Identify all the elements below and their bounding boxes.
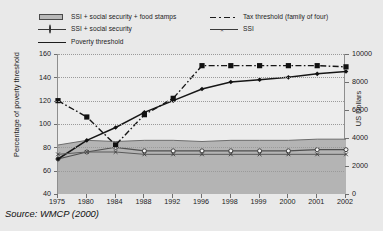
y-axis-left-tickmark	[54, 147, 58, 148]
y-axis-left-tickmark	[54, 124, 58, 125]
x-axis-tickmark	[57, 194, 58, 198]
x-axis-tickmark	[172, 194, 173, 198]
x-axis-tick-label: 1996	[193, 198, 209, 206]
y-axis-left-tick-label: 140	[39, 74, 51, 81]
x-axis-tickmark	[287, 194, 288, 198]
legend-item-ssi-social-security: SSI + social security	[38, 24, 176, 37]
x-axis-tickmark	[115, 194, 116, 198]
y-axis-right-tickmark	[345, 166, 349, 167]
line-open-circle-icon	[38, 24, 66, 35]
y-axis-right-tickmark	[345, 54, 349, 55]
x-axis-tickmark	[259, 194, 260, 198]
y-axis-right-tick-label: 8000	[352, 78, 368, 85]
gridline	[58, 147, 344, 148]
line-x-marker-icon: ×	[210, 24, 238, 35]
area-swatch-icon	[38, 12, 66, 23]
y-axis-right-tick-label: 4000	[352, 134, 368, 141]
x-axis-tickmark	[143, 194, 144, 198]
y-axis-right-tickmark	[345, 110, 349, 111]
x-axis-tick-label: 1975	[49, 198, 65, 206]
x-axis-tick-label: 1992	[164, 198, 180, 206]
y-axis-left-tick-label: 160	[39, 50, 51, 57]
y-axis-left-tickmark	[54, 171, 58, 172]
y-axis-right-tick-label: 6000	[352, 106, 368, 113]
legend-item-poverty-threshold: Poverty threshold	[38, 36, 176, 49]
y-axis-left-tickmark	[54, 54, 58, 55]
y-axis-left-title: Percentage of poverty threshold	[12, 45, 21, 165]
y-axis-right-tickmark	[345, 138, 349, 139]
x-axis-tick-label: 1988	[135, 198, 151, 206]
legend-item-ssi-social-security-food-stamps: SSI + social security + food stamps	[38, 11, 176, 24]
chart-legend: SSI + social security + food stamps SSI …	[38, 11, 368, 49]
gridline	[58, 124, 344, 125]
legend-label: SSI + social security + food stamps	[71, 14, 176, 21]
x-axis-tick-label: 1980	[78, 198, 94, 206]
legend-column-right: Tax threshold (family of four) × SSI	[210, 11, 328, 36]
gridline	[58, 77, 344, 78]
legend-label: SSI + social security	[71, 26, 132, 33]
y-axis-left-tick-label: 60	[43, 167, 51, 174]
x-axis-tickmark	[201, 194, 202, 198]
x-axis-labels: 1975198019841988199219961998199920002001…	[57, 198, 345, 210]
x-axis-tick-label: 1999	[251, 198, 267, 206]
y-axis-left-tickmark	[54, 101, 58, 102]
plot-area	[57, 54, 345, 194]
legend-item-tax-threshold: Tax threshold (family of four)	[210, 11, 328, 24]
legend-item-ssi: × SSI	[210, 24, 328, 37]
source-caption: Source: WMCP (2000)	[5, 208, 99, 219]
gridline	[58, 101, 344, 102]
chart-figure: SSI + social security + food stamps SSI …	[0, 0, 383, 231]
y-axis-right-tick-label: 10000	[352, 50, 372, 57]
x-axis-tick-label: 2001	[308, 198, 324, 206]
y-axis-left-tick-label: 120	[39, 97, 51, 104]
y-axis-left-tick-label: 80	[43, 144, 51, 151]
x-axis-tickmark	[316, 194, 317, 198]
legend-column-left: SSI + social security + food stamps SSI …	[38, 11, 176, 49]
y-axis-left-tickmark	[54, 77, 58, 78]
x-axis-tickmark	[230, 194, 231, 198]
x-axis-tick-label: 1998	[222, 198, 238, 206]
y-axis-right-tickmark	[345, 82, 349, 83]
legend-label: Tax threshold (family of four)	[243, 14, 328, 21]
x-axis-tickmark	[86, 194, 87, 198]
x-axis-tick-label: 2002	[337, 198, 353, 206]
legend-label: SSI	[243, 26, 254, 33]
line-filled-diamond-icon	[38, 37, 66, 48]
gridline	[58, 54, 344, 55]
y-axis-left-tick-label: 100	[39, 120, 51, 127]
dashdot-filled-square-icon	[210, 12, 238, 23]
x-axis-tick-label: 1984	[107, 198, 123, 206]
y-axis-right-tick-label: 2000	[352, 162, 368, 169]
gridline	[58, 171, 344, 172]
chart-area: Percentage of poverty threshold US Dolla…	[0, 48, 383, 198]
x-axis-tick-label: 2000	[279, 198, 295, 206]
x-axis-tickmark	[345, 194, 346, 198]
legend-label: Poverty threshold	[71, 39, 123, 46]
